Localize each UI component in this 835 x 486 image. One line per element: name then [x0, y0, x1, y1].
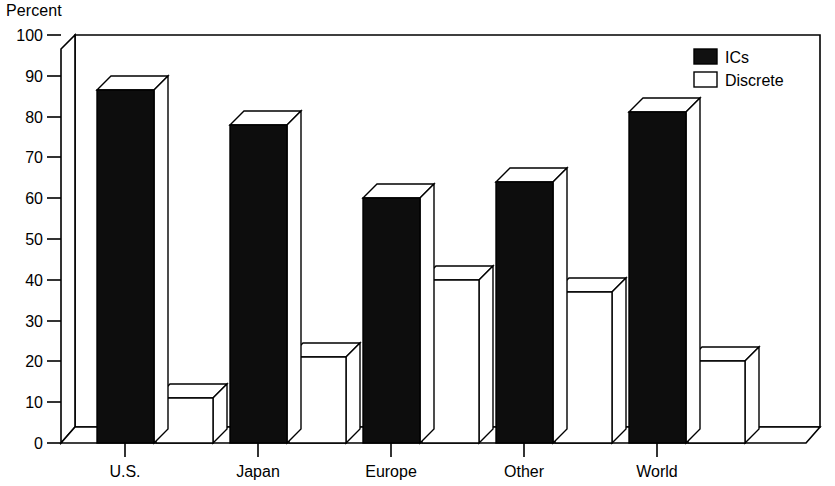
y-tick-label: 60	[25, 190, 43, 207]
y-tick-label: 30	[25, 313, 43, 330]
y-tick-label: 100	[16, 27, 43, 44]
legend-item-discrete: Discrete	[694, 72, 784, 89]
x-tick-label-us: U.S.	[109, 463, 140, 480]
outlined-white-square-icon	[694, 72, 717, 87]
bar-world-ics	[629, 98, 700, 443]
bar-chart: Percent	[0, 0, 835, 486]
x-tick-label-world: World	[636, 463, 678, 480]
x-axis: U.S. Japan Europe Other World	[109, 443, 677, 480]
plot-left-wall	[61, 35, 75, 443]
y-tick-label: 70	[25, 149, 43, 166]
y-tick-label: 10	[25, 394, 43, 411]
y-tick-label: 20	[25, 353, 43, 370]
y-tick-label: 50	[25, 231, 43, 248]
y-tick-label: 0	[34, 435, 43, 452]
bar-europe-ics	[363, 184, 434, 443]
legend-label-discrete: Discrete	[725, 72, 784, 89]
x-tick-label-europe: Europe	[365, 463, 417, 480]
filled-black-square-icon	[694, 49, 717, 64]
y-tick-label: 90	[25, 68, 43, 85]
y-tick-group	[47, 35, 61, 443]
y-tick-label: 80	[25, 109, 43, 126]
x-tick-label-other: Other	[504, 463, 545, 480]
y-axis: 100 90 80 70 60 50 40 30 20 10 0	[16, 27, 61, 452]
chart-plot-area: 100 90 80 70 60 50 40 30 20 10 0	[0, 0, 835, 486]
legend-label-ics: ICs	[725, 49, 749, 66]
bar-us-ics	[97, 76, 168, 443]
y-tick-label: 40	[25, 272, 43, 289]
bar-japan-ics	[230, 111, 301, 443]
bar-other-ics	[496, 168, 567, 443]
x-tick-label-japan: Japan	[236, 463, 280, 480]
